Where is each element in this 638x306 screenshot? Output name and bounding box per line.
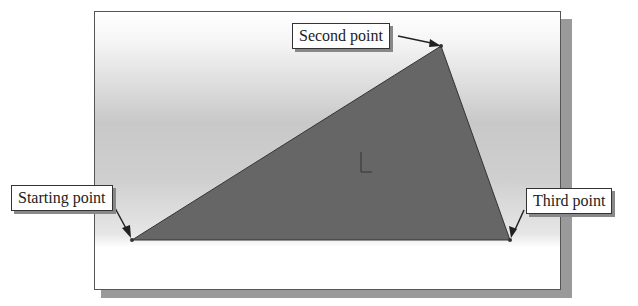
arrow-third-point-icon bbox=[509, 210, 524, 238]
arrow-starting-point-icon bbox=[115, 208, 131, 238]
callout-third-point: Third point bbox=[526, 188, 612, 214]
third-vertex[interactable] bbox=[508, 238, 512, 242]
second-vertex[interactable] bbox=[439, 44, 443, 48]
callout-starting-point: Starting point bbox=[11, 185, 113, 211]
arrow-second-point-icon bbox=[398, 36, 441, 47]
triangle-shape bbox=[132, 46, 510, 240]
callout-second-point: Second point bbox=[292, 23, 390, 49]
start-vertex[interactable] bbox=[130, 238, 134, 242]
